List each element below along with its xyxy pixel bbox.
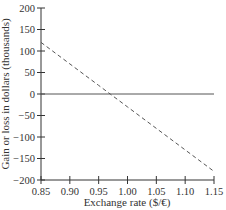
y-tick-label: −200 bbox=[13, 175, 35, 186]
y-tick-label: −50 bbox=[19, 110, 35, 121]
y-tick-label: 0 bbox=[30, 89, 35, 100]
y-axis: 200150100500−50−100−150−200 bbox=[13, 3, 45, 186]
y-tick-label: 100 bbox=[19, 46, 35, 57]
y-tick-label: 50 bbox=[25, 67, 36, 78]
x-tick-label: 0.85 bbox=[32, 186, 50, 197]
gain-loss-line bbox=[41, 42, 214, 171]
y-tick-label: −150 bbox=[13, 153, 35, 164]
gain-loss-chart: 200150100500−50−100−150−200 0.850.900.95… bbox=[0, 0, 226, 210]
x-axis: 0.850.900.951.001.051.101.15 bbox=[32, 176, 223, 197]
x-tick-label: 1.15 bbox=[205, 186, 223, 197]
y-tick-label: −100 bbox=[13, 132, 35, 143]
y-tick-label: 200 bbox=[19, 3, 35, 14]
x-tick-label: 1.10 bbox=[176, 186, 194, 197]
y-tick-label: 150 bbox=[19, 24, 35, 35]
y-axis-label: Gain or loss in dollars (thousands) bbox=[0, 18, 12, 170]
x-axis-label: Exchange rate ($/€) bbox=[84, 196, 171, 209]
x-tick-label: 0.90 bbox=[61, 186, 79, 197]
series-layer bbox=[41, 42, 214, 171]
